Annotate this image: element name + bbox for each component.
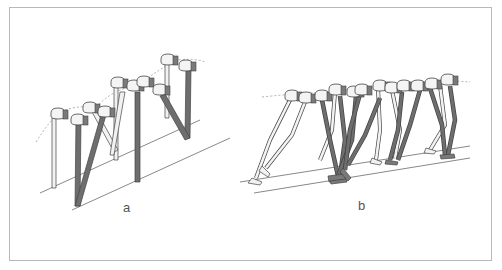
panel-a-label: a <box>123 200 130 215</box>
gait-diagram <box>0 0 502 270</box>
ground-line-back <box>40 120 200 193</box>
panel-b-drawing <box>240 74 470 193</box>
panel-b-label: b <box>358 198 365 213</box>
panel-a-drawing <box>36 54 230 210</box>
